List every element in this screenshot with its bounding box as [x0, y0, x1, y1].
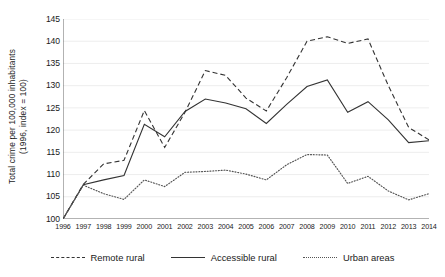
y-tick-label-120: 120: [36, 126, 60, 135]
y-tick-label-135: 135: [36, 59, 60, 68]
legend-item-remote-rural[interactable]: Remote rural: [51, 252, 145, 263]
y-axis-title-line2: (1996, index = 100): [17, 49, 28, 184]
legend-label: Remote rural: [91, 252, 145, 263]
plot-svg: [63, 19, 429, 219]
plot-area: [63, 19, 429, 219]
legend-swatch-solid-icon: [171, 253, 205, 261]
y-tick-label-140: 140: [36, 37, 60, 46]
legend-swatch-dotted-icon: [303, 253, 337, 261]
y-tick-label-125: 125: [36, 104, 60, 113]
y-tick-label-110: 110: [36, 170, 60, 179]
legend-label: Urban areas: [343, 252, 395, 263]
legend-swatch-dashed-icon: [51, 253, 85, 261]
y-tick-label-115: 115: [36, 148, 60, 157]
y-axis-tick-labels: 100105110115120125130135140145: [34, 0, 60, 232]
x-tick-label-2014: 2014: [414, 223, 444, 231]
legend-item-urban-areas[interactable]: Urban areas: [303, 252, 395, 263]
x-axis-tick-labels: 1996199719981999200020012002200320042005…: [63, 223, 429, 237]
legend-label: Accessible rural: [211, 252, 277, 263]
y-axis-title: Total crime per 100,000 inhabitants (199…: [0, 0, 34, 232]
chart-legend: Remote ruralAccessible ruralUrban areas: [0, 248, 445, 266]
y-tick-label-130: 130: [36, 81, 60, 90]
series-line-remote-rural: [63, 37, 429, 219]
crime-index-line-chart: Total crime per 100,000 inhabitants (199…: [0, 0, 445, 277]
legend-item-accessible-rural[interactable]: Accessible rural: [171, 252, 277, 263]
y-tick-label-145: 145: [36, 15, 60, 24]
y-tick-label-105: 105: [36, 192, 60, 201]
y-axis-title-line1: Total crime per 100,000 inhabitants: [7, 49, 17, 184]
series-line-urban-areas: [63, 155, 429, 219]
